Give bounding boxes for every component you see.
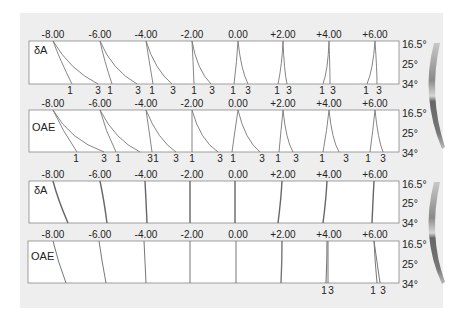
svg-text:0.00: 0.00 bbox=[228, 169, 248, 180]
svg-text:+6.00: +6.00 bbox=[362, 229, 388, 240]
svg-text:3: 3 bbox=[217, 153, 223, 164]
svg-text:3: 3 bbox=[101, 153, 107, 164]
svg-text:3: 3 bbox=[380, 153, 386, 164]
lens-profile-bottom bbox=[429, 182, 445, 284]
svg-text:3: 3 bbox=[286, 85, 292, 96]
svg-text:1: 1 bbox=[191, 85, 197, 96]
svg-text:3: 3 bbox=[380, 285, 386, 296]
svg-text:-8.00: -8.00 bbox=[42, 29, 65, 40]
svg-text:34°: 34° bbox=[402, 78, 418, 90]
column-labels-3: -8.00 -6.00 -4.00 -2.00 0.00 +2.00 +4.00… bbox=[42, 169, 388, 180]
svg-text:1: 1 bbox=[67, 85, 73, 96]
lens-diagram: -8.00 -6.00 -4.00 -2.00 0.00 +2.00 +4.00… bbox=[0, 0, 466, 319]
svg-text:+2.00: +2.00 bbox=[270, 29, 296, 40]
svg-text:16.5°: 16.5° bbox=[402, 178, 427, 190]
svg-text:1: 1 bbox=[370, 285, 376, 296]
svg-text:+2.00: +2.00 bbox=[270, 229, 296, 240]
svg-text:25°: 25° bbox=[402, 127, 418, 139]
svg-text:+6.00: +6.00 bbox=[362, 169, 388, 180]
panel-1-delta-a: -8.00 -6.00 -4.00 -2.00 0.00 +2.00 +4.00… bbox=[29, 29, 427, 96]
svg-text:16.5°: 16.5° bbox=[402, 107, 427, 119]
svg-text:3: 3 bbox=[245, 85, 251, 96]
svg-text:0.00: 0.00 bbox=[228, 29, 248, 40]
svg-text:1: 1 bbox=[149, 85, 155, 96]
svg-text:-6.00: -6.00 bbox=[89, 98, 112, 109]
svg-text:25°: 25° bbox=[402, 258, 418, 270]
svg-text:25°: 25° bbox=[402, 197, 418, 209]
panel-4-oae: -8.00 -6.00 -4.00 -2.00 0.00 +2.00 +4.00… bbox=[28, 229, 427, 296]
svg-text:-4.00: -4.00 bbox=[135, 29, 158, 40]
svg-text:34°: 34° bbox=[402, 217, 418, 229]
svg-text:-8.00: -8.00 bbox=[42, 169, 65, 180]
panel-4-box bbox=[28, 241, 399, 283]
svg-text:1: 1 bbox=[189, 153, 195, 164]
panel-2-label: OAE bbox=[32, 121, 55, 133]
lens-profile-top bbox=[429, 43, 445, 149]
svg-text:+6.00: +6.00 bbox=[362, 29, 388, 40]
svg-text:-2.00: -2.00 bbox=[181, 229, 204, 240]
svg-text:+2.00: +2.00 bbox=[270, 169, 296, 180]
svg-text:1: 1 bbox=[230, 85, 236, 96]
svg-text:1: 1 bbox=[153, 153, 159, 164]
svg-text:-6.00: -6.00 bbox=[89, 169, 112, 180]
svg-text:1: 1 bbox=[73, 153, 79, 164]
svg-text:-6.00: -6.00 bbox=[89, 29, 112, 40]
column-labels-1: -8.00 -6.00 -4.00 -2.00 0.00 +2.00 +4.00… bbox=[42, 29, 388, 40]
svg-text:1: 1 bbox=[115, 153, 121, 164]
svg-text:1: 1 bbox=[319, 85, 325, 96]
svg-text:-2.00: -2.00 bbox=[181, 98, 204, 109]
svg-text:-6.00: -6.00 bbox=[89, 229, 112, 240]
panel-3-label: δA bbox=[34, 184, 48, 196]
svg-text:-8.00: -8.00 bbox=[42, 229, 65, 240]
svg-text:34°: 34° bbox=[402, 147, 418, 159]
svg-text:-4.00: -4.00 bbox=[135, 229, 158, 240]
svg-text:+4.00: +4.00 bbox=[316, 229, 342, 240]
svg-text:25°: 25° bbox=[402, 58, 418, 70]
svg-text:1: 1 bbox=[319, 153, 325, 164]
svg-text:3: 3 bbox=[209, 85, 215, 96]
svg-text:3: 3 bbox=[95, 85, 101, 96]
angle-labels-3: 16.5° 25° 34° bbox=[402, 178, 427, 229]
svg-text:3: 3 bbox=[343, 153, 349, 164]
column-labels-2: -8.00 -6.00 -4.00 -2.00 0.00 +2.00 +4.00… bbox=[42, 98, 388, 109]
svg-text:1: 1 bbox=[363, 85, 369, 96]
svg-text:-2.00: -2.00 bbox=[181, 169, 204, 180]
panel-3-box bbox=[29, 181, 399, 223]
svg-text:+4.00: +4.00 bbox=[316, 29, 342, 40]
panel-1-label: δA bbox=[34, 44, 48, 56]
svg-text:3: 3 bbox=[135, 85, 141, 96]
bottom-marks-2: 1 3 1 3 1 3 1 3 1 3 1 3 1 3 1 3 bbox=[73, 153, 386, 164]
column-labels-4: -8.00 -6.00 -4.00 -2.00 0.00 +2.00 +4.00… bbox=[42, 229, 388, 240]
svg-text:3: 3 bbox=[173, 153, 179, 164]
svg-text:+4.00: +4.00 bbox=[316, 98, 342, 109]
svg-text:34°: 34° bbox=[402, 278, 418, 290]
svg-text:3: 3 bbox=[328, 285, 334, 296]
svg-text:3: 3 bbox=[293, 153, 299, 164]
svg-text:1: 1 bbox=[365, 153, 371, 164]
svg-text:3: 3 bbox=[376, 85, 382, 96]
svg-text:0.00: 0.00 bbox=[228, 98, 248, 109]
angle-labels-1: 16.5° 25° 34° bbox=[402, 38, 427, 90]
svg-text:3: 3 bbox=[170, 85, 176, 96]
panel-4-label: OAE bbox=[31, 250, 54, 262]
svg-text:+4.00: +4.00 bbox=[316, 169, 342, 180]
panel-2-oae: -8.00 -6.00 -4.00 -2.00 0.00 +2.00 +4.00… bbox=[29, 98, 427, 164]
svg-text:-4.00: -4.00 bbox=[135, 169, 158, 180]
svg-text:+6.00: +6.00 bbox=[362, 98, 388, 109]
svg-text:16.5°: 16.5° bbox=[402, 38, 427, 50]
svg-text:1: 1 bbox=[107, 85, 113, 96]
svg-text:16.5°: 16.5° bbox=[402, 238, 427, 250]
svg-text:-4.00: -4.00 bbox=[135, 98, 158, 109]
svg-text:1: 1 bbox=[274, 85, 280, 96]
panel-1-box bbox=[29, 41, 399, 84]
svg-text:1: 1 bbox=[321, 285, 327, 296]
bottom-marks-1: 1 3 1 3 1 3 1 3 1 3 1 3 1 3 1 3 bbox=[67, 85, 382, 96]
svg-text:0.00: 0.00 bbox=[228, 229, 248, 240]
svg-text:3: 3 bbox=[330, 85, 336, 96]
svg-text:1: 1 bbox=[275, 153, 281, 164]
angle-labels-2: 16.5° 25° 34° bbox=[402, 107, 427, 159]
angle-labels-4: 16.5° 25° 34° bbox=[402, 238, 427, 290]
svg-text:3: 3 bbox=[259, 153, 265, 164]
svg-text:+2.00: +2.00 bbox=[270, 98, 296, 109]
panel-2-box bbox=[29, 110, 399, 152]
